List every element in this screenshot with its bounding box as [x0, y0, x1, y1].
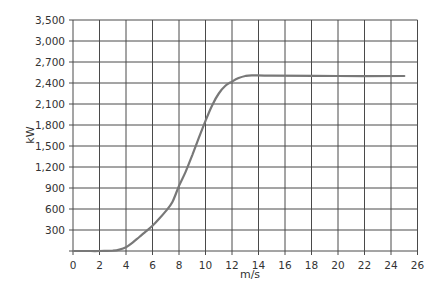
y-tick-label: 2,100	[35, 98, 65, 110]
x-axis-title: m/s	[240, 268, 260, 281]
y-tick-label: 3,500	[35, 14, 65, 26]
y-tick-label: 1,800	[35, 119, 65, 131]
x-tick-label: 4	[123, 259, 130, 271]
power-curve-chart: 3006009001,2001,5001,8002,1002,4002,7003…	[0, 0, 448, 303]
y-tick-label: 1,200	[35, 161, 65, 173]
x-tick-label: 8	[176, 259, 183, 271]
x-tick-label: 18	[305, 259, 318, 271]
x-tick-label: 6	[149, 259, 156, 271]
y-tick-label: 2,400	[35, 77, 65, 89]
power-curve-line	[73, 75, 404, 251]
x-tick-label: 24	[384, 259, 398, 271]
x-tick-label: 10	[199, 259, 212, 271]
y-tick-label: 1,500	[35, 140, 65, 152]
x-tick-label: 16	[278, 259, 292, 271]
x-tick-label: 20	[331, 259, 344, 271]
x-tick-label: 26	[411, 259, 425, 271]
x-tick-label: 12	[225, 259, 238, 271]
x-tick-label: 0	[70, 259, 77, 271]
y-tick-label: 2,700	[35, 56, 65, 68]
y-tick-label: 3,000	[35, 35, 65, 47]
x-tick-label: 2	[96, 259, 103, 271]
y-axis-tick-labels: 3006009001,2001,5001,8002,1002,4002,7003…	[35, 14, 65, 236]
y-axis-title: kW	[24, 126, 37, 143]
y-tick-label: 900	[45, 182, 65, 194]
x-tick-label: 22	[358, 259, 371, 271]
horizontal-gridlines	[69, 20, 418, 251]
y-tick-label: 600	[45, 203, 65, 215]
y-tick-label: 300	[45, 224, 65, 236]
vertical-gridlines	[73, 20, 418, 255]
